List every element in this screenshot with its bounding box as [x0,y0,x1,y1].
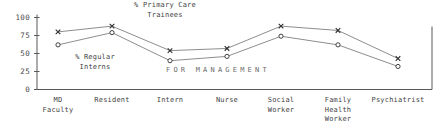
data-point-marker-o-3 [225,54,229,58]
data-point-marker-o-2 [168,59,172,63]
series-layer [56,24,401,69]
data-point-marker-o-0 [56,43,60,47]
axis-lines [37,15,432,90]
data-point-marker-o-1 [110,31,114,35]
data-point-marker-o-5 [336,43,340,47]
data-point-marker-o-6 [396,64,400,68]
data-point-marker-o-4 [279,34,283,38]
plot-area [0,0,441,133]
series-line-0 [58,26,398,58]
data-point-marker-x-6 [396,56,401,61]
axes [34,15,432,90]
chart-figure: 100 75 50 25 0 % Primary Care Trainees %… [0,0,441,133]
